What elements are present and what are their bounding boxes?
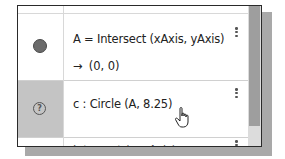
more-vert-icon[interactable]	[234, 27, 240, 39]
visibility-toggle-cell[interactable]	[18, 13, 63, 80]
more-vert-icon[interactable]	[234, 88, 240, 100]
algebra-view-panel: A = Intersect (xAxis, yAxis) →(0, 0) ? c…	[17, 5, 262, 147]
result-arrow-icon: →	[73, 59, 83, 73]
algebra-row-point-a[interactable]: A = Intersect (xAxis, yAxis) →(0, 0)	[18, 13, 248, 81]
command-text[interactable]: c : Circle (A, 8.25)	[73, 97, 172, 111]
column-divider	[63, 6, 64, 147]
scrollbar-thumb[interactable]	[249, 6, 260, 126]
help-icon[interactable]: ?	[33, 102, 46, 115]
algebra-row-circle-c[interactable]: ? c : Circle (A, 8.25)	[18, 81, 248, 138]
scrollbar[interactable]	[248, 6, 261, 147]
command-text[interactable]: A = Intersect (xAxis, yAxis)	[73, 32, 224, 46]
filled-circle-icon[interactable]	[33, 39, 47, 53]
result-output: →(0, 0)	[73, 59, 120, 73]
command-text[interactable]: Intersect (c, xAxis)	[73, 143, 176, 147]
visibility-toggle-cell[interactable]: ?	[18, 81, 63, 137]
result-value: (0, 0)	[89, 59, 120, 73]
hand-pointer-icon	[174, 106, 194, 130]
more-vert-icon[interactable]	[234, 140, 240, 147]
algebra-row-partial[interactable]: Intersect (c, xAxis)	[18, 138, 248, 147]
